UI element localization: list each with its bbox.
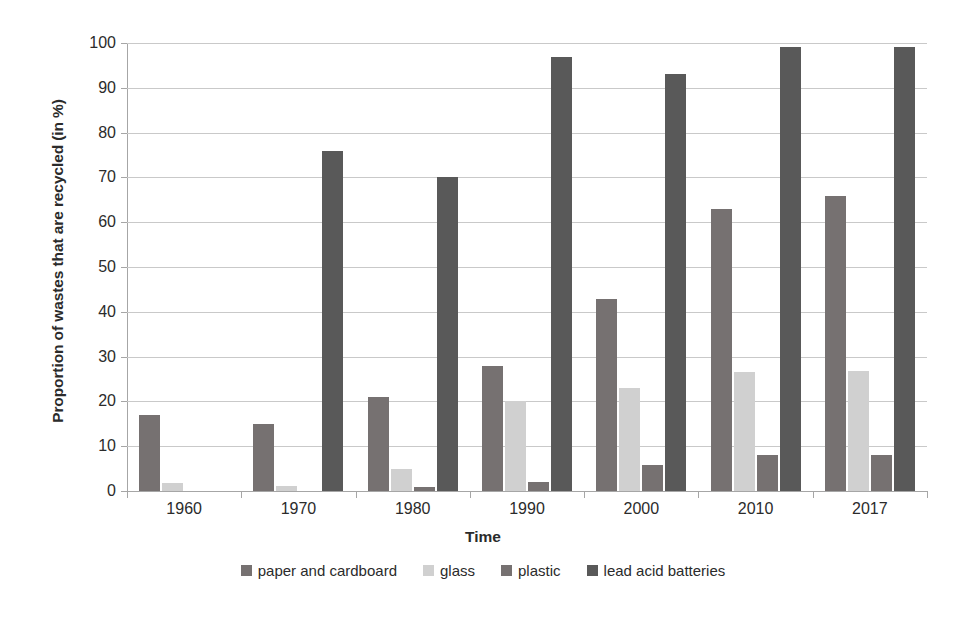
bar-paper-and-cardboard-2000 (596, 299, 617, 491)
legend-swatch-icon (241, 565, 252, 576)
x-tick-mark (698, 491, 699, 498)
bar-group-1990 (470, 43, 584, 491)
x-tick-mark (356, 491, 357, 498)
y-tick-label: 90 (68, 80, 116, 96)
bar-glass-2010 (734, 372, 755, 491)
y-tick-label: 100 (68, 35, 116, 51)
legend-item-plastic[interactable]: plastic (501, 562, 561, 579)
bar-plastic-2000 (642, 465, 663, 491)
bar-glass-1980 (391, 469, 412, 491)
bar-group-1960 (127, 43, 241, 491)
x-tick-mark (813, 491, 814, 498)
legend-label: plastic (518, 562, 561, 579)
x-axis-title: Time (0, 528, 966, 546)
legend-item-glass[interactable]: glass (423, 562, 475, 579)
legend-swatch-icon (587, 565, 598, 576)
x-tick-mark (584, 491, 585, 498)
y-tick-label: 20 (68, 393, 116, 409)
legend-item-lead-acid-batteries[interactable]: lead acid batteries (587, 562, 726, 579)
bar-paper-and-cardboard-1960 (139, 415, 160, 491)
bar-plastic-1990 (528, 482, 549, 491)
bar-lead-acid-batteries-1970 (322, 151, 343, 491)
bar-lead-acid-batteries-1980 (437, 177, 458, 491)
x-tick-label-1990: 1990 (482, 500, 572, 518)
y-tick-label: 30 (68, 349, 116, 365)
legend-item-paper-and-cardboard[interactable]: paper and cardboard (241, 562, 397, 579)
bar-group-2017 (813, 43, 927, 491)
y-tick-label: 80 (68, 125, 116, 141)
y-tick-label: 0 (68, 483, 116, 499)
bar-lead-acid-batteries-2010 (780, 47, 801, 491)
x-tick-label-2010: 2010 (711, 500, 801, 518)
bar-lead-acid-batteries-2017 (894, 47, 915, 491)
y-axis-tick-labels: 1009080706050403020100 (58, 43, 116, 491)
x-tick-mark (470, 491, 471, 498)
plot-area (127, 43, 927, 491)
bar-glass-2000 (619, 388, 640, 491)
x-tick-label-1980: 1980 (368, 500, 458, 518)
bar-group-2010 (698, 43, 812, 491)
x-tick-label-1960: 1960 (139, 500, 229, 518)
chart-legend: paper and cardboardglassplasticlead acid… (0, 562, 966, 579)
bar-group-1980 (356, 43, 470, 491)
bar-paper-and-cardboard-1970 (253, 424, 274, 491)
bar-glass-2017 (848, 371, 869, 491)
bar-paper-and-cardboard-1980 (368, 397, 389, 491)
bar-chart: Proportion of wastes that are recycled (… (0, 0, 966, 621)
legend-label: paper and cardboard (258, 562, 397, 579)
bar-group-2000 (584, 43, 698, 491)
y-tick-label: 40 (68, 304, 116, 320)
bar-lead-acid-batteries-2000 (665, 74, 686, 491)
y-tick-label: 10 (68, 438, 116, 454)
axis-baseline (127, 491, 927, 492)
bar-glass-1990 (505, 401, 526, 491)
bar-paper-and-cardboard-2010 (711, 209, 732, 491)
legend-swatch-icon (423, 565, 434, 576)
bar-paper-and-cardboard-1990 (482, 366, 503, 491)
bar-groups (127, 43, 927, 491)
bar-plastic-2017 (871, 455, 892, 491)
bar-lead-acid-batteries-1990 (551, 57, 572, 491)
x-tick-label-2017: 2017 (825, 500, 915, 518)
x-tick-mark (127, 491, 128, 498)
x-tick-label-1970: 1970 (253, 500, 343, 518)
y-tick-label: 70 (68, 169, 116, 185)
x-tick-mark (241, 491, 242, 498)
legend-label: lead acid batteries (604, 562, 726, 579)
bar-glass-1970 (276, 486, 297, 491)
bar-plastic-2010 (757, 455, 778, 491)
bar-group-1970 (241, 43, 355, 491)
y-tick-label: 60 (68, 214, 116, 230)
legend-swatch-icon (501, 565, 512, 576)
y-tick-label: 50 (68, 259, 116, 275)
x-tick-label-2000: 2000 (596, 500, 686, 518)
legend-label: glass (440, 562, 475, 579)
bar-glass-1960 (162, 483, 183, 491)
bar-paper-and-cardboard-2017 (825, 196, 846, 491)
x-tick-mark (927, 491, 928, 498)
bar-plastic-1980 (414, 487, 435, 491)
